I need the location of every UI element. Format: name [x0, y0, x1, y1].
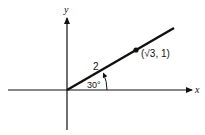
- angle-arc: [104, 74, 108, 91]
- ray-line: [67, 28, 174, 90]
- angle-label: 30°: [87, 80, 101, 90]
- length-label: 2: [93, 61, 99, 72]
- x-axis-label: x: [194, 84, 200, 95]
- point-marker: [133, 47, 138, 52]
- unit-circle-diagram: y x 2 30° (√3, 1): [0, 0, 205, 135]
- y-axis-label: y: [63, 4, 69, 15]
- point-label: (√3, 1): [141, 48, 170, 59]
